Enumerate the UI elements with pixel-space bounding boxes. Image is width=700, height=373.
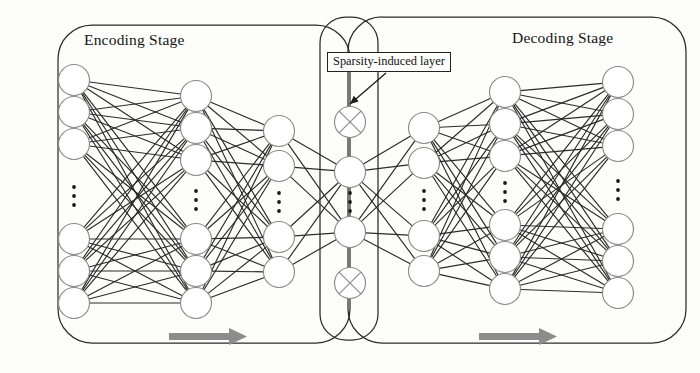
node-encoder-hidden-2-2 (264, 222, 295, 253)
edge-sparsity-induced-layer-to-decoder-hidden-1 (363, 136, 410, 164)
edge-input-layer-to-encoder-hidden-1 (89, 146, 180, 158)
ellipsis-dot-decoder-hidden-2-2 (503, 199, 507, 203)
ellipsis-dot-decoder-hidden-1-1 (422, 198, 426, 202)
node-output-layer-3 (603, 214, 634, 245)
ellipsis-dot-sparsity-induced-layer-0 (348, 191, 352, 195)
node-encoder-hidden-2-0 (264, 116, 295, 147)
edge-decoder-hidden-1-to-decoder-hidden-2 (439, 274, 490, 285)
edge-decoder-hidden-1-to-decoder-hidden-2 (437, 233, 491, 264)
edge-decoder-hidden-1-to-decoder-hidden-2 (439, 260, 489, 269)
node-decoder-hidden-1-1 (409, 148, 440, 179)
sparsity-induced-layer-callout: Sparsity-induced layer (327, 52, 451, 72)
node-encoder-hidden-1-3 (181, 224, 212, 255)
ellipsis-dot-encoder-hidden-1-1 (194, 198, 198, 202)
node-decoder-hidden-2-0 (490, 77, 521, 108)
ellipsis-dot-output-layer-2 (616, 197, 620, 201)
node-encoder-hidden-2-3 (264, 257, 295, 288)
ellipsis-dot-encoder-hidden-2-2 (277, 209, 281, 213)
node-output-layer-0 (603, 67, 634, 98)
node-output-layer-2 (603, 131, 634, 162)
node-output-layer-1 (603, 99, 634, 130)
node-decoder-hidden-2-5 (490, 274, 521, 305)
node-sparsity-induced-layer-2 (335, 217, 366, 248)
node-output-layer-5 (603, 278, 634, 309)
edge-encoder-hidden-1-to-encoder-hidden-2 (211, 271, 263, 272)
edge-encoder-hidden-1-to-encoder-hidden-2 (211, 129, 263, 131)
node-decoder-hidden-2-3 (490, 210, 521, 241)
node-decoder-hidden-1-3 (409, 256, 440, 287)
node-input-layer-0 (59, 65, 90, 96)
edge-encoder-hidden-1-to-encoder-hidden-2 (210, 102, 264, 125)
node-input-layer-3 (59, 224, 90, 255)
node-input-layer-2 (59, 129, 90, 160)
ellipsis-dot-encoder-hidden-2-1 (277, 200, 281, 204)
node-output-layer-4 (603, 246, 634, 277)
node-decoder-hidden-2-4 (490, 242, 521, 273)
edge-input-layer-to-encoder-hidden-1 (89, 82, 180, 94)
node-encoder-hidden-2-1 (264, 151, 295, 182)
ellipsis-dot-decoder-hidden-2-0 (503, 181, 507, 185)
edge-encoder-hidden-1-to-encoder-hidden-2 (211, 277, 265, 297)
ellipsis-dot-output-layer-0 (616, 179, 620, 183)
edge-decoder-hidden-2-to-output-layer (513, 95, 609, 244)
ellipsis-dot-decoder-hidden-2-1 (503, 190, 507, 194)
node-encoder-hidden-1-5 (181, 288, 212, 319)
edge-sparsity-induced-layer-to-decoder-hidden-1 (365, 233, 408, 235)
ellipsis-dot-decoder-hidden-1-0 (422, 189, 426, 193)
ellipsis-dot-sparsity-induced-layer-1 (348, 200, 352, 204)
edge-encoder-hidden-2-to-sparsity-induced-layer (294, 233, 334, 236)
node-input-layer-1 (59, 97, 90, 128)
node-encoder-hidden-1-4 (181, 256, 212, 287)
node-sparsity-induced-layer-1 (335, 157, 366, 188)
node-decoder-hidden-1-2 (409, 221, 440, 252)
callout-arrow (350, 73, 386, 104)
node-decoder-hidden-1-0 (409, 113, 440, 144)
edge-decoder-hidden-1-to-decoder-hidden-2 (439, 157, 489, 161)
edge-input-layer-to-encoder-hidden-1 (85, 155, 186, 260)
edge-input-layer-to-encoder-hidden-1 (88, 102, 181, 139)
edge-input-layer-to-encoder-hidden-1 (83, 109, 187, 259)
ellipsis-dot-sparsity-induced-layer-2 (348, 209, 352, 213)
edge-sparsity-induced-layer-to-decoder-hidden-1 (365, 165, 408, 170)
node-input-layer-5 (59, 288, 90, 319)
node-input-layer-4 (59, 256, 90, 287)
edge-decoder-hidden-1-to-decoder-hidden-2 (437, 244, 492, 280)
edge-input-layer-to-encoder-hidden-1 (89, 98, 180, 110)
edge-encoder-hidden-1-to-encoder-hidden-2 (210, 243, 264, 265)
ellipsis-dot-input-layer-1 (72, 194, 76, 198)
edge-decoder-hidden-1-to-decoder-hidden-2 (438, 98, 491, 121)
node-encoder-hidden-1-1 (181, 113, 212, 144)
ellipsis-dot-encoder-hidden-1-0 (194, 189, 198, 193)
ellipsis-dot-decoder-hidden-1-2 (422, 207, 426, 211)
node-decoder-hidden-2-1 (490, 109, 521, 140)
ellipsis-dot-input-layer-0 (72, 185, 76, 189)
edge-decoder-hidden-2-to-output-layer (520, 290, 602, 293)
ellipsis-dot-encoder-hidden-1-2 (194, 207, 198, 211)
ellipsis-dot-encoder-hidden-2-0 (277, 191, 281, 195)
edge-decoder-hidden-2-to-output-layer (516, 167, 606, 251)
ellipsis-dot-input-layer-2 (72, 203, 76, 207)
node-encoder-hidden-1-2 (181, 145, 212, 176)
encoding-stage-title: Encoding Stage (84, 31, 185, 49)
node-encoder-hidden-1-0 (181, 81, 212, 112)
edge-encoder-hidden-1-to-encoder-hidden-2 (204, 109, 271, 223)
autoencoder-diagram: Encoding Stage Decoding Stage Sparsity-i… (0, 0, 700, 373)
edge-decoder-hidden-2-to-output-layer (520, 83, 602, 90)
ellipsis-dot-output-layer-1 (616, 188, 620, 192)
node-decoder-hidden-2-2 (490, 141, 521, 172)
edge-decoder-hidden-2-to-output-layer (520, 87, 604, 118)
edge-encoder-hidden-2-to-sparsity-induced-layer (294, 167, 334, 170)
edge-encoder-hidden-1-to-encoder-hidden-2 (211, 237, 263, 238)
decoding-stage-title: Decoding Stage (512, 29, 613, 47)
edge-input-layer-to-encoder-hidden-1 (89, 130, 180, 142)
